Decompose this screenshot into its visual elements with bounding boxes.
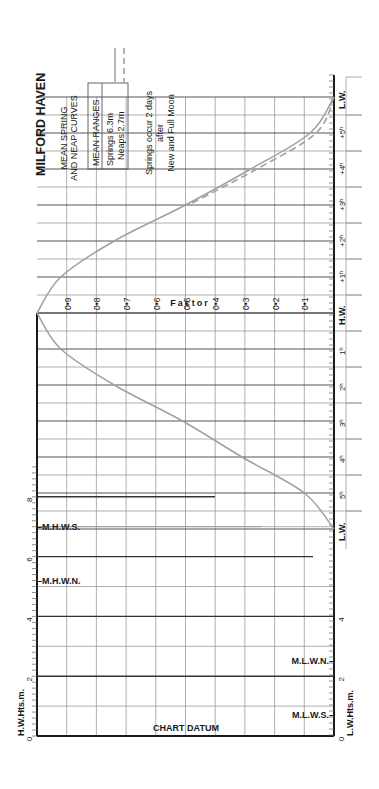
mlws-label: M.L.W.S.– (292, 710, 334, 720)
lw-axis-label: L.W.Hts.m. (345, 690, 355, 736)
mean-ranges-header: MEAN RANGES (91, 99, 101, 166)
falling-hour-label: 5ʰ (338, 491, 347, 499)
falling-hour-label: 3ʰ (338, 419, 347, 427)
grid-lines (37, 77, 362, 736)
rising-hour-label: L.W. (337, 91, 347, 110)
factor-tick-label: 0•4 (211, 297, 221, 310)
rising-hour-label: +4ʰ (338, 163, 347, 175)
rising-hour-label: +3ʰ (338, 199, 347, 211)
rising-hour-label: +2ʰ (338, 235, 347, 247)
lw-axis-tick-label: 4 (337, 617, 346, 622)
chart-datum-label: CHART DATUM (153, 723, 219, 733)
note-line: after (155, 124, 165, 142)
factor-tick-label: 0•8 (92, 297, 102, 310)
mlwn-label: M.L.W.N.– (292, 656, 335, 666)
hw-axis-tick-label: 2 (25, 676, 34, 681)
falling-hour-label: 4ʰ (338, 455, 347, 463)
springs-range: Springs 6.3m (105, 113, 115, 166)
falling-hour-label: L.W. (337, 523, 347, 542)
note-line: New and Full Moon (166, 94, 176, 172)
mhws-label: –M.H.W.S. (37, 522, 80, 532)
hw-axis-tick-label: 6 (25, 557, 34, 562)
hw-axis-tick-label: 8 (25, 497, 34, 502)
factor-label: Factor (170, 298, 210, 308)
diagram-title: MILFORD HAVEN (34, 73, 48, 176)
factor-tick-label: 0•7 (122, 297, 132, 310)
hw-axis-tick-label: 0 (25, 736, 34, 741)
factor-tick-label: 0•3 (241, 297, 251, 310)
rising-hour-label: H.W. (337, 306, 347, 326)
mhwn-label: –M.H.W.N. (37, 576, 81, 586)
hw-axis-tick-label: 4 (25, 617, 34, 622)
note-line: Springs occur 2 days (144, 90, 154, 175)
factor-tick-label: 0•9 (63, 297, 73, 310)
factor-tick-label: 0•1 (300, 297, 310, 310)
tidal-curve-diagram: 0•90•80•70•60•50•40•30•20•1FactorL.W.+5ʰ… (0, 0, 379, 789)
falling-hour-label: 1ʰ (338, 347, 347, 355)
rising-hour-label: +5ʰ (338, 127, 347, 139)
legend: MILFORD HAVENMEAN SPRINGAND NEAP CURVESM… (34, 48, 176, 181)
subtitle-line: MEAN SPRING (59, 106, 69, 169)
hw-axis-label: H.W.Hts.m. (16, 689, 26, 736)
rising-hour-label: +1ʰ (338, 271, 347, 283)
subtitle-line: AND NEAP CURVES (69, 95, 79, 181)
factor-tick-label: 0•2 (271, 297, 281, 310)
neaps-range: Neaps 2.7m (116, 111, 126, 160)
factor-tick-label: 0•6 (152, 297, 162, 310)
falling-hour-label: 2ʰ (338, 383, 347, 391)
lw-axis-tick-label: 2 (337, 676, 346, 681)
